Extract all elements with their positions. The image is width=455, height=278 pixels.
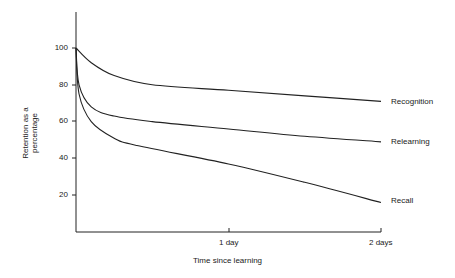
chart-canvas [0,0,455,278]
series-label-recall: Recall [391,196,413,205]
y-tick-label: 80 [48,80,68,89]
x-tick-label: 2 days [369,238,393,247]
y-tick-label: 40 [48,153,68,162]
series-label-relearning: Relearning [391,137,430,146]
y-axis-label: Retention as a percentage [21,93,39,173]
series-line-recognition [76,48,381,101]
y-tick-label: 100 [48,43,68,52]
x-tick-label: 1 day [219,238,239,247]
y-ticks [72,48,76,195]
series-line-relearning [76,48,381,142]
series-line-recall [76,48,381,203]
series-label-recognition: Recognition [391,97,433,106]
x-ticks [229,228,381,232]
x-axis-label: Time since learning [193,256,262,265]
y-tick-label: 20 [48,190,68,199]
y-tick-label: 60 [48,116,68,125]
